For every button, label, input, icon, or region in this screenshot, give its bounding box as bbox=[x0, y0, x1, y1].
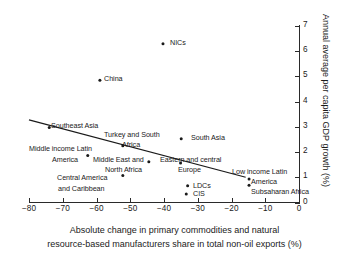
x-axis-title-line1: Absolute change in primary commodities a… bbox=[0, 224, 349, 236]
y-tick-label: 6 bbox=[303, 45, 308, 54]
point-label-subsaharan-africa: Subsaharan Africa bbox=[251, 188, 309, 196]
point-label-turkey-south-africa-line1: Turkey and South bbox=[104, 131, 160, 139]
data-point-marker bbox=[180, 137, 183, 140]
x-tick-label: −30 bbox=[187, 204, 209, 213]
point-label-low-income-latin-line2: America bbox=[251, 178, 277, 186]
point-label-mena-line2: North Africa bbox=[105, 166, 142, 174]
point-label-eastern-central-europe-line2: Europe bbox=[178, 166, 201, 174]
data-point-marker bbox=[186, 184, 189, 187]
x-tick-label: −40 bbox=[153, 204, 175, 213]
x-axis-ticks bbox=[30, 198, 300, 203]
x-tick-label: −70 bbox=[52, 204, 74, 213]
point-label-central-america-line2: and Caribbean bbox=[58, 185, 105, 193]
point-label-mena-line1: Middle East and bbox=[93, 156, 144, 164]
y-tick-label: 7 bbox=[303, 20, 308, 29]
x-tick-label: −60 bbox=[86, 204, 108, 213]
point-label-central-america-line1: Central America bbox=[57, 174, 107, 182]
x-tick-label: −20 bbox=[221, 204, 243, 213]
data-point-marker bbox=[121, 174, 124, 177]
y-tick-label: 0 bbox=[303, 197, 308, 206]
point-label-cis: CIS bbox=[193, 190, 205, 198]
y-tick-label: 5 bbox=[303, 70, 308, 79]
data-point-marker bbox=[98, 79, 101, 82]
point-label-low-income-latin-line1: Low income Latin bbox=[232, 168, 287, 176]
x-tick-label: −80 bbox=[18, 204, 40, 213]
point-label-south-asia: South Asia bbox=[191, 134, 225, 142]
point-label-southeast-asia: Southeast Asia bbox=[51, 122, 98, 130]
data-point-marker bbox=[185, 192, 188, 195]
data-point-marker bbox=[147, 160, 150, 163]
x-tick-label: −10 bbox=[254, 204, 276, 213]
point-label-eastern-central-europe-line1: Eastern and central bbox=[160, 156, 221, 164]
y-tick-label: 4 bbox=[303, 96, 308, 105]
point-label-middle-income-latin-line1: Middle income Latin bbox=[29, 145, 92, 153]
y-axis-title: Annual average per capita GDP growth (%) bbox=[321, 14, 331, 187]
y-axis-ticks bbox=[295, 27, 300, 204]
data-point-marker bbox=[86, 154, 89, 157]
y-tick-label: 2 bbox=[303, 146, 308, 155]
scatter-chart: −80−70−60−50−40−30−20−100 01234567 NICs … bbox=[0, 0, 349, 261]
x-axis-title-line2: resource-based manufacturers share in to… bbox=[0, 238, 349, 250]
point-label-middle-income-latin-line2: America bbox=[52, 156, 78, 164]
point-label-nics: NICs bbox=[170, 39, 186, 47]
y-tick-label: 3 bbox=[303, 121, 308, 130]
y-tick-label: 1 bbox=[303, 171, 308, 180]
x-tick-label: −50 bbox=[119, 204, 141, 213]
point-label-china: China bbox=[104, 75, 123, 83]
data-point-marker bbox=[161, 42, 164, 45]
point-label-turkey-south-africa-line2: Africa bbox=[122, 141, 140, 149]
